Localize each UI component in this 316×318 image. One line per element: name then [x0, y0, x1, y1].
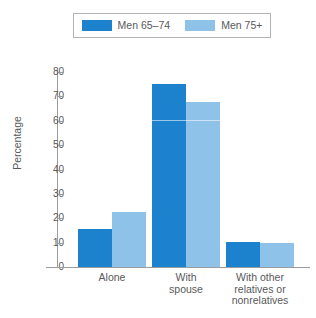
y-axis-title: Percentage	[11, 98, 23, 188]
bar-2-1	[260, 243, 294, 267]
y-tick-mark-60	[58, 121, 64, 122]
bar-1-0	[152, 84, 186, 267]
bar-0-0	[78, 229, 112, 267]
category-label-2-line-2: nonrelatives	[210, 295, 310, 307]
bar-scanline-artifact	[147, 120, 225, 121]
chart-figure: Men 65–74 Men 75+ 80706050403020100 Perc…	[0, 0, 316, 318]
y-tick-mark-40	[58, 170, 64, 171]
y-tick-mark-10	[58, 243, 64, 244]
y-tick-mark-50	[58, 145, 64, 146]
y-tick-mark-80	[58, 72, 64, 73]
y-tick-mark-20	[58, 218, 64, 219]
x-axis-line	[46, 267, 310, 268]
category-label-2: With otherrelatives ornonrelatives	[210, 272, 310, 307]
bar-2-0	[226, 242, 260, 267]
y-tick-mark-70	[58, 96, 64, 97]
category-label-2-line-0: With other	[210, 272, 310, 284]
y-tick-mark-0	[58, 267, 64, 268]
bar-0-1	[112, 212, 146, 267]
plot-area: 80706050403020100 Percentage AloneWithsp…	[0, 0, 316, 318]
bar-1-1	[186, 102, 220, 267]
y-tick-mark-30	[58, 194, 64, 195]
